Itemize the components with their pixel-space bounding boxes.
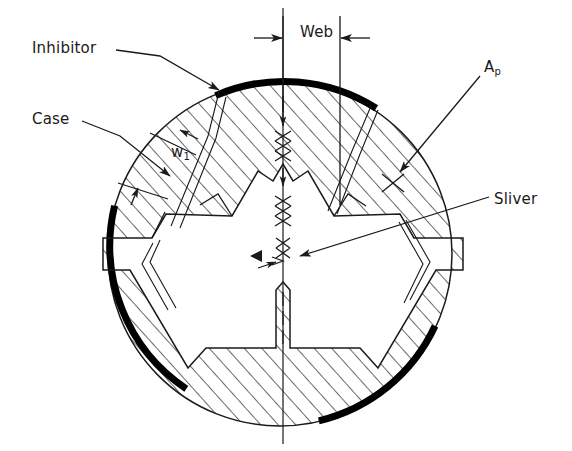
figure-root: Inhibitor Case Web Ap Sliver w1: [0, 0, 572, 451]
sliver-arrowhead: [250, 250, 262, 262]
label-ap-subscript: p: [494, 66, 500, 77]
label-sliver: Sliver: [494, 190, 537, 208]
label-w1-subscript: 1: [183, 151, 189, 162]
label-w1-base: w: [171, 143, 183, 161]
leader-inhibitor: [116, 50, 219, 90]
leader-ap: [400, 76, 480, 172]
break-squiggle-2: [275, 196, 291, 226]
label-ap: Ap: [484, 58, 501, 77]
label-ap-base: A: [484, 58, 494, 76]
label-case: Case: [32, 110, 70, 128]
label-inhibitor: Inhibitor: [32, 39, 96, 57]
label-w1: w1: [171, 143, 190, 162]
label-web: Web: [300, 23, 333, 41]
break-squiggle-3: [272, 238, 290, 265]
propellant-grain: [96, 70, 468, 442]
